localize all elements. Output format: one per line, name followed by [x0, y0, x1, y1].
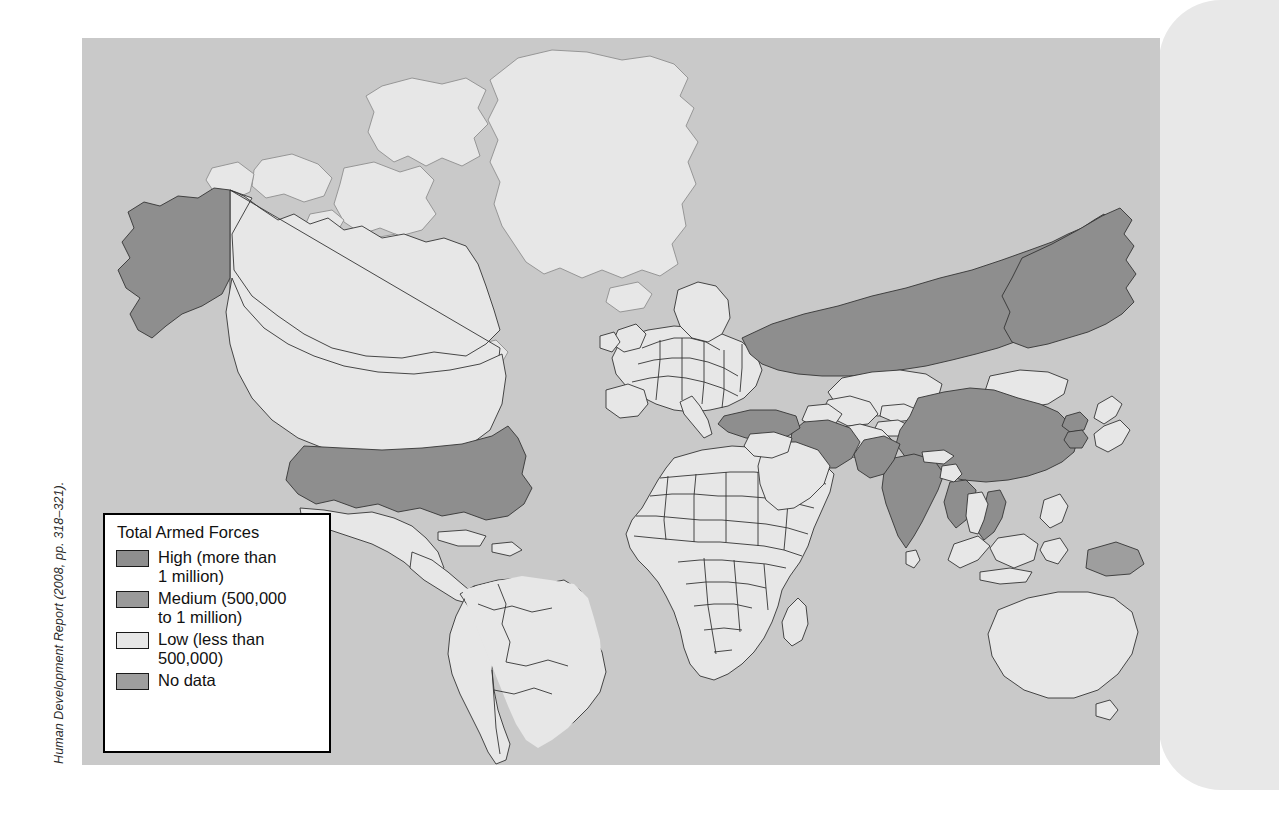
legend-title: Total Armed Forces — [117, 524, 319, 541]
region-baffin-island — [334, 162, 436, 236]
legend-item-low: Low (less than 500,000) — [116, 630, 319, 667]
legend-item-no-data: No data — [116, 671, 319, 690]
legend-label-low: Low (less than 500,000) — [158, 630, 264, 667]
legend-item-medium: Medium (500,000 to 1 million) — [116, 589, 319, 626]
legend-swatch-no-data — [116, 673, 149, 690]
legend-label-no-data: No data — [158, 671, 216, 689]
legend-label-high: High (more than 1 million) — [158, 548, 276, 585]
map-legend: Total Armed Forces High (more than 1 mil… — [103, 513, 331, 753]
region-ellesmere-island — [366, 78, 488, 166]
legend-label-medium: Medium (500,000 to 1 million) — [158, 589, 286, 626]
legend-swatch-low — [116, 632, 149, 649]
source-credit: Human Development Report (2008, pp. 318–… — [48, 434, 70, 764]
region-greenland — [488, 50, 698, 278]
legend-swatch-high — [116, 550, 149, 567]
legend-item-high: High (more than 1 million) — [116, 548, 319, 585]
page-edge-decoration — [1159, 0, 1279, 790]
legend-swatch-medium — [116, 591, 149, 608]
